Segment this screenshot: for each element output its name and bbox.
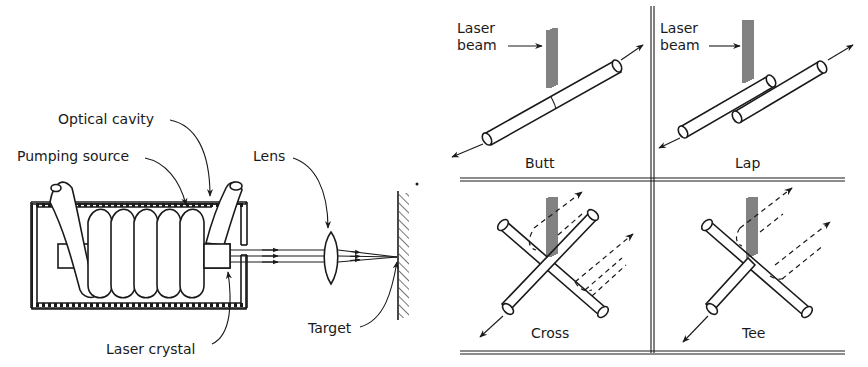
joint-tee: Tee bbox=[683, 188, 830, 342]
lap-laser-label-2: beam bbox=[660, 37, 700, 53]
laser-beam-icon bbox=[547, 28, 557, 88]
lens bbox=[324, 232, 338, 284]
label-target: Target bbox=[307, 320, 352, 336]
laser-beam-icon bbox=[743, 20, 753, 83]
label-optical-cavity: Optical cavity bbox=[58, 111, 154, 127]
lens-arrow bbox=[293, 158, 328, 228]
butt-laser-label-1: Laser bbox=[457, 20, 495, 36]
label-laser-crystal: Laser crystal bbox=[106, 341, 195, 357]
butt-laser-label-2: beam bbox=[457, 37, 497, 53]
target-arrow bbox=[360, 262, 397, 327]
label-pumping-source: Pumping source bbox=[17, 148, 129, 164]
joint-label-cross: Cross bbox=[531, 325, 569, 341]
label-lens: Lens bbox=[253, 148, 285, 164]
crystal-output-end bbox=[204, 244, 230, 268]
joint-label-tee: Tee bbox=[741, 325, 765, 341]
laser-beam-rays bbox=[230, 250, 397, 262]
joint-label-lap: Lap bbox=[735, 155, 760, 171]
laser-welding-diagram: Optical cavity Pumping source Lens Laser… bbox=[0, 0, 868, 367]
joint-cross: Cross bbox=[480, 192, 633, 341]
laser-setup-panel: Optical cavity Pumping source Lens Laser… bbox=[17, 111, 419, 357]
joint-label-butt: Butt bbox=[525, 155, 555, 171]
laser-beam-icon bbox=[547, 197, 557, 258]
joint-lap: Laser beam Lap bbox=[659, 20, 853, 171]
laser-beam-icon bbox=[747, 197, 757, 258]
pumping-source-coil bbox=[50, 182, 242, 298]
target-wall bbox=[398, 183, 419, 321]
optical-cavity-arrow bbox=[170, 120, 210, 196]
lap-laser-label-1: Laser bbox=[660, 20, 698, 36]
joint-types-panel: Laser beam Butt Laser beam bbox=[452, 6, 853, 354]
pumping-source-arrow bbox=[145, 158, 186, 205]
joint-butt: Laser beam Butt bbox=[452, 20, 643, 171]
